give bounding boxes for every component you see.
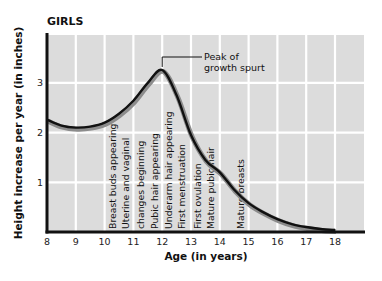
y-tick-label: 2	[37, 127, 43, 138]
annotation-text: growth spurt	[204, 62, 265, 73]
y-tick-label: 1	[37, 177, 43, 188]
x-tick-label: 14	[214, 236, 226, 247]
x-tick-label: 16	[271, 236, 283, 247]
y-tick-label: 3	[37, 77, 43, 88]
event-label: First ovulation	[192, 163, 203, 229]
event-label: changes beginning	[135, 141, 146, 229]
event-label: First menstruation	[176, 144, 187, 229]
annotation-text: Peak of	[204, 51, 239, 62]
event-label: Breast buds appearing	[107, 123, 118, 229]
x-tick-label: 9	[73, 236, 79, 247]
event-label: Underarm hair appearing	[163, 111, 174, 229]
chart-title: GIRLS	[47, 15, 84, 28]
x-tick-label: 13	[185, 236, 197, 247]
x-tick-label: 10	[99, 236, 111, 247]
x-tick-label: 15	[243, 236, 255, 247]
x-tick-label: 11	[127, 236, 139, 247]
x-tick-label: 8	[44, 236, 50, 247]
x-tick-label: 12	[156, 236, 168, 247]
x-axis-label: Age (in years)	[164, 250, 247, 262]
x-tick-label: 18	[329, 236, 341, 247]
growth-chart: Breast buds appearingUterine and vaginal…	[0, 0, 382, 281]
event-label: Pubic hair appearing	[149, 133, 160, 229]
event-label: Uterine and vaginal	[120, 138, 131, 229]
y-axis-label: Height increase per year (in inches)	[12, 27, 24, 240]
x-tick-label: 17	[300, 236, 312, 247]
